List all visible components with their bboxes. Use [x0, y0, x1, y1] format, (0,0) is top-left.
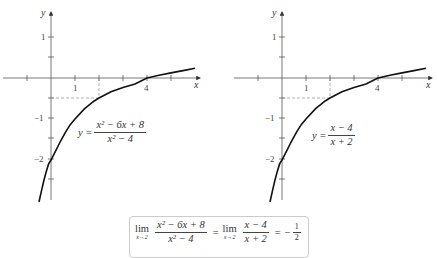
denominator: x + 2 [243, 233, 269, 245]
denominator: x + 2 [328, 136, 354, 148]
equation-fraction: x − 4 x + 2 [328, 123, 354, 147]
right-graph: y x 1 4 1 −1 −2 [234, 7, 432, 202]
minus-sign: − [285, 227, 291, 238]
lim-subscript: x→2 [136, 234, 148, 240]
numerator: 1 [293, 223, 301, 233]
denominator: x² − 4 [105, 133, 134, 145]
x-tick-label-1: 1 [73, 83, 78, 93]
y-tick-label-neg1: −1 [265, 113, 275, 123]
left-graph: y x 1 4 1 −1 −2 [3, 7, 200, 202]
x-tick-label-4: 4 [375, 83, 380, 93]
equals-sign: = [275, 227, 281, 238]
numerator: x − 4 [243, 220, 269, 233]
x-axis-label: x [193, 79, 199, 90]
y-tick-label-1: 1 [272, 32, 277, 42]
x-tick-label-1: 1 [304, 83, 309, 93]
lim-subscript: x→2 [224, 234, 236, 240]
numerator: x² − 6x + 8 [94, 120, 146, 133]
x-tick-label-4: 4 [144, 83, 149, 93]
equation-lhs: y = [78, 127, 92, 138]
numerator: x² − 6x + 8 [155, 220, 207, 233]
equation-lhs: y = [312, 130, 326, 141]
denominator: 2 [293, 233, 301, 242]
x-axis-label: x [425, 79, 431, 90]
limit-statement: lim x→2 x² − 6x + 8 x² − 4 = lim x→2 x −… [135, 220, 303, 244]
y-tick-label-neg2: −2 [34, 154, 44, 164]
y-tick-label-1: 1 [41, 32, 46, 42]
numerator: x − 4 [328, 123, 354, 136]
limit-fraction-1: x² − 6x + 8 x² − 4 [155, 220, 207, 244]
lim-word: lim [135, 224, 149, 235]
denominator: x² − 4 [166, 233, 195, 245]
lim-word: lim [223, 224, 237, 235]
equals-sign: = [213, 227, 219, 238]
left-equation: y = x² − 6x + 8 x² − 4 [78, 120, 148, 144]
limit-operator: lim x→2 [135, 224, 149, 241]
y-axis-label: y [40, 7, 46, 18]
y-tick-label-neg1: −1 [34, 113, 44, 123]
limit-operator: lim x→2 [223, 224, 237, 241]
y-axis-label: y [271, 7, 277, 18]
y-tick-label-neg2: −2 [265, 154, 275, 164]
result-fraction: 1 2 [293, 223, 301, 242]
limit-fraction-2: x − 4 x + 2 [243, 220, 269, 244]
right-equation: y = x − 4 x + 2 [312, 123, 357, 147]
equation-fraction: x² − 6x + 8 x² − 4 [94, 120, 146, 144]
